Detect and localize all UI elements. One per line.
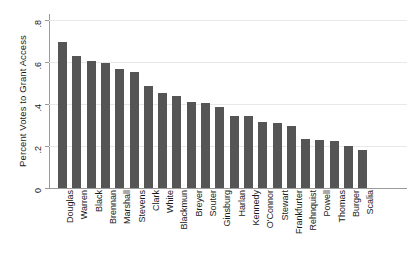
x-axis-tick-label: Souter [209,190,218,268]
bar [258,122,267,188]
bar [201,103,210,188]
bar [244,116,253,188]
x-axis-tick-label: Brennan [109,190,118,268]
x-axis-tick-label: Burger [352,190,361,268]
bar-chart: Percent Votes to Grant Access 0.2.4.6.8 … [0,0,413,270]
y-axis-tick-label: .8 [33,20,43,50]
x-axis-tick-label: Rehnquist [309,190,318,268]
bar [72,56,81,188]
y-axis-tick [45,188,49,189]
bar [315,140,324,188]
bar [230,116,239,188]
bar [172,96,181,188]
x-axis-tick-label: O'Connor [266,190,275,268]
y-axis-tick-label: .4 [33,104,43,134]
bar [144,86,153,188]
bar [115,69,124,188]
x-axis-tick-label: Clark [152,190,161,268]
x-axis-tick-label: Marshall [123,190,132,268]
y-axis-title: Percent Votes to Grant Access [12,6,34,196]
x-axis-labels: DouglasWarrenBlackBrennanMarshallStevens… [49,190,407,270]
x-axis-tick-label: Douglas [66,190,75,268]
bar [301,139,310,188]
x-axis-tick-label: Harlan [238,190,247,268]
bar [187,102,196,188]
x-axis-tick-label: Thomas [338,190,347,268]
bar [87,61,96,188]
y-axis-tick-label: 0 [33,188,43,218]
bar [344,146,353,188]
x-axis-tick-label: Stevens [138,190,147,268]
bar [158,93,167,188]
bar [101,63,110,188]
x-axis-tick-label: Scalia [366,190,375,268]
y-axis-tick-label: .6 [33,62,43,92]
bar [330,141,339,188]
x-axis-tick-label: Powell [323,190,332,268]
bars-group [49,14,407,188]
x-axis-tick-label: Black [95,190,104,268]
x-axis-tick-label: Kennedy [252,190,261,268]
x-axis-tick-label: Warren [80,190,89,268]
x-axis-tick-label: Blackmun [180,190,189,268]
x-axis-tick-label: Stewart [281,190,290,268]
bar [287,126,296,188]
x-axis-tick-label: Frankfurter [295,190,304,268]
bar [58,42,67,188]
x-axis-line [49,188,407,189]
bar [358,150,367,188]
bar [215,107,224,188]
x-axis-tick-label: Ginsburg [223,190,232,268]
bar [273,123,282,188]
x-axis-tick-label: Breyer [195,190,204,268]
y-axis-tick-label: .2 [33,146,43,176]
bar [130,72,139,188]
x-axis-tick-label: White [166,190,175,268]
